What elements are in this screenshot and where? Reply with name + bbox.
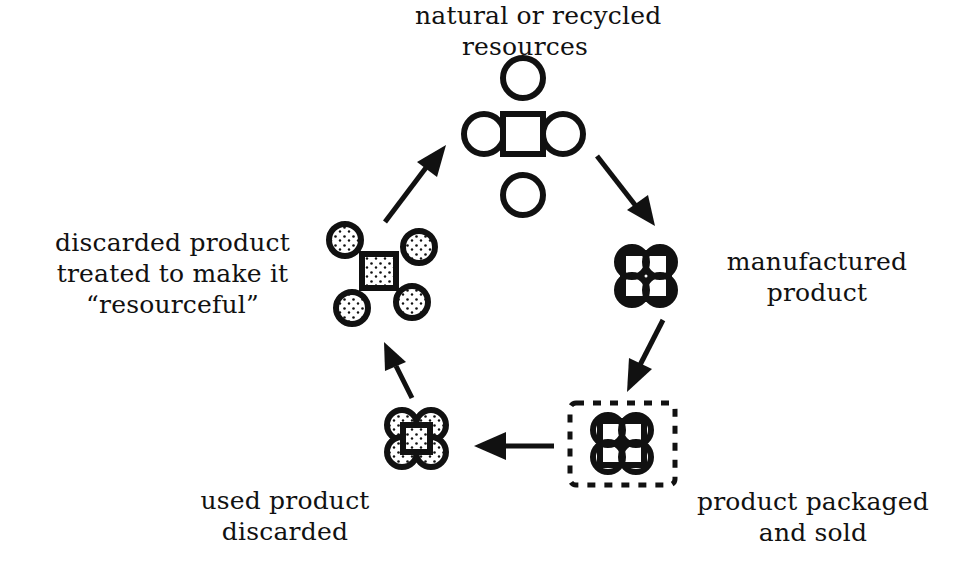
manufactured-product-icon <box>617 247 675 305</box>
label-product-packaged-and-sold: product packaged and sold <box>682 486 944 548</box>
label-line: and sold <box>682 517 944 548</box>
label-line: treated to make it <box>40 258 305 289</box>
arrow-treated-to-resources <box>385 145 446 222</box>
label-natural-or-recycled-resources: natural or recycled resources <box>415 0 635 62</box>
label-line: discarded <box>185 516 385 547</box>
packaged-product-icon <box>570 403 675 485</box>
treated-product-icon <box>329 224 435 324</box>
label-manufactured-product: manufactured product <box>712 246 922 308</box>
label-line: manufactured <box>712 246 922 277</box>
arrow-manufactured-to-packaged <box>627 320 663 392</box>
label-discarded-product-treated: discarded product treated to make it “re… <box>40 227 305 320</box>
label-line: product packaged <box>682 486 944 517</box>
arrow-discarded-to-treated <box>384 342 412 398</box>
label-line: discarded product <box>40 227 305 258</box>
arrow-packaged-to-discarded <box>474 432 554 460</box>
arrow-resources-to-manufactured <box>597 156 655 226</box>
label-line: used product <box>185 485 385 516</box>
label-line: “resourceful” <box>40 289 305 320</box>
discarded-product-icon <box>387 410 446 467</box>
label-line: natural or recycled <box>415 0 635 31</box>
label-line: product <box>712 277 922 308</box>
raw-resources-icon <box>464 58 583 215</box>
label-used-product-discarded: used product discarded <box>185 485 385 547</box>
label-line: resources <box>415 31 635 62</box>
